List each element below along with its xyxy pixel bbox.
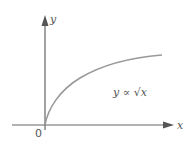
origin-label: 0 — [35, 127, 42, 140]
x-axis-arrow-icon — [163, 122, 174, 129]
sqrt-diagram: y x 0 y ∝ √x — [0, 0, 188, 149]
y-axis-label: y — [49, 13, 57, 26]
x-axis-label: x — [177, 119, 184, 132]
curve-label: y ∝ √x — [112, 86, 148, 99]
y-axis-arrow-icon — [42, 15, 49, 26]
